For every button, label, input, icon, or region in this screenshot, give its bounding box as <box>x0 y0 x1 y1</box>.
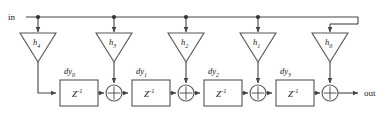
junction-dot-h2 <box>184 15 188 19</box>
output-port-label: out <box>364 88 376 98</box>
delay-tap-label-1: dy1 <box>136 66 147 78</box>
junction-dot-h1 <box>256 15 260 19</box>
input-port-label: in <box>8 12 16 22</box>
junction-dot-h4 <box>36 15 40 19</box>
fir-filter-diagram: in h4 h3 h2 h1 h0 <box>0 0 388 115</box>
delay-tap-label-3: dy3 <box>280 66 291 78</box>
junction-dot-h3 <box>112 15 116 19</box>
delay-tap-label-0: dy0 <box>64 66 75 78</box>
signal-flow-graph-canvas: in h4 h3 h2 h1 h0 <box>0 0 388 115</box>
gain-output-wire-h4 <box>38 62 56 93</box>
delay-tap-label-2: dy2 <box>208 66 219 78</box>
